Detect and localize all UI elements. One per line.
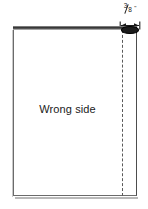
diagram-canvas: 3 8 " Wrong side — [0, 0, 148, 209]
fraction-denominator: 8 — [128, 7, 132, 14]
fabric-label-wrong-side: Wrong side — [13, 103, 122, 115]
top-seam-band — [13, 27, 137, 30]
seam-oval-icon — [121, 26, 139, 34]
fold-line — [122, 30, 123, 196]
dimension-label: 3 8 " — [118, 1, 142, 15]
fabric-shadow-bottom — [15, 197, 138, 199]
dimension-line — [119, 16, 141, 25]
inch-mark: " — [134, 5, 136, 11]
fraction-three-eighths: 3 8 — [124, 3, 134, 14]
